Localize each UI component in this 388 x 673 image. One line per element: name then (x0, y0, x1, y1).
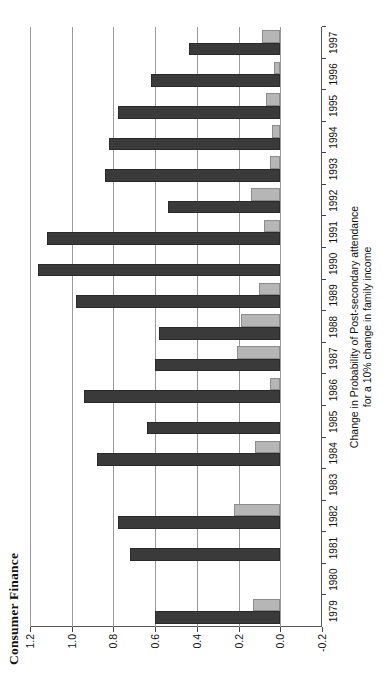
category-axis-tick-label: 1988 (328, 316, 339, 338)
bar (253, 599, 280, 612)
value-axis-tick (322, 627, 323, 632)
bar (97, 453, 281, 466)
value-axis-tick (155, 627, 156, 632)
bar (155, 359, 280, 372)
bar (168, 201, 281, 214)
category-axis-tick-label: 1979 (328, 600, 339, 622)
bar (270, 378, 280, 391)
value-axis-tick (72, 627, 73, 632)
bar (38, 264, 280, 277)
category-axis-tick-label: 1995 (328, 95, 339, 117)
bar (259, 283, 280, 296)
bar (84, 390, 280, 403)
category-axis-tick-label: 1991 (328, 221, 339, 243)
value-axis-tick (239, 627, 240, 632)
value-axis-tick-label: 1.2 (24, 634, 36, 649)
category-axis-tick (322, 310, 326, 311)
bar (251, 188, 280, 201)
bar (241, 314, 281, 327)
category-axis-tick-label: 1987 (328, 347, 339, 369)
value-axis-tick-label: 0.0 (274, 634, 286, 649)
category-axis-tick-label: 1994 (328, 126, 339, 148)
bar (274, 62, 280, 75)
bar (47, 232, 281, 245)
category-axis-tick-label: 1984 (328, 442, 339, 464)
value-axis-tick-label: 0.6 (149, 634, 161, 649)
value-axis-tick (113, 627, 114, 632)
gridline (113, 27, 114, 627)
category-axis-tick (322, 563, 326, 564)
category-axis-tick-label: 1981 (328, 537, 339, 559)
category-axis-tick (322, 437, 326, 438)
category-axis-tick (322, 279, 326, 280)
category-axis-tick (322, 58, 326, 59)
bar (262, 30, 281, 43)
category-axis-tick (322, 89, 326, 90)
bar (130, 548, 280, 561)
value-axis-tick-label: 0.8 (107, 634, 119, 649)
category-axis-tick (322, 500, 326, 501)
category-axis-tick-label: 1980 (328, 569, 339, 591)
axis-title-line-1: Change in Probability of Post-secondary … (348, 27, 361, 627)
rotated-chart-canvas: Consumer Finance 1.21.00.80.60.40.20.0-0… (0, 0, 388, 673)
gridline (280, 27, 281, 627)
bar (159, 327, 280, 340)
bar (255, 441, 280, 454)
value-axis-tick (30, 627, 31, 632)
gridline (72, 27, 73, 627)
category-axis-tick (322, 594, 326, 595)
category-axis-tick-label: 1986 (328, 379, 339, 401)
category-axis-tick-label: 1997 (328, 32, 339, 54)
bar (118, 106, 281, 119)
value-axis-tick-label: -0.2 (316, 634, 328, 652)
bar (147, 422, 280, 435)
bar (189, 43, 281, 56)
bar (155, 611, 280, 624)
bar (151, 74, 280, 87)
category-axis-tick (322, 405, 326, 406)
category-axis-tick (322, 26, 326, 27)
axis-title: Change in Probability of Post-secondary … (348, 27, 374, 627)
bar (76, 295, 280, 308)
bar (105, 169, 280, 182)
gridline (30, 27, 31, 627)
bar (264, 220, 281, 233)
bar (270, 156, 280, 169)
bar (237, 346, 281, 359)
category-axis-tick (322, 121, 326, 122)
plot-area: 1.21.00.80.60.40.20.0-0.2 19791980198119… (30, 27, 322, 627)
bar (234, 504, 280, 517)
bar (109, 138, 280, 151)
page-title: Consumer Finance (6, 553, 22, 665)
bar (118, 516, 281, 529)
category-axis-tick (322, 184, 326, 185)
category-axis-tick (322, 247, 326, 248)
category-axis-tick-label: 1990 (328, 253, 339, 275)
bar (266, 93, 281, 106)
value-axis-tick-label: 0.4 (191, 634, 203, 649)
category-axis-tick-label: 1983 (328, 474, 339, 496)
category-axis-tick-label: 1985 (328, 411, 339, 433)
category-axis-tick-label: 1996 (328, 63, 339, 85)
bar (272, 125, 280, 138)
category-axis-tick-label: 1982 (328, 505, 339, 527)
category-axis-tick (322, 152, 326, 153)
category-axis-tick (322, 468, 326, 469)
category-axis-tick (322, 531, 326, 532)
category-axis-tick (322, 342, 326, 343)
category-axis-tick-label: 1992 (328, 190, 339, 212)
category-axis-tick (322, 215, 326, 216)
value-axis-tick-label: 1.0 (66, 634, 78, 649)
value-axis-tick (197, 627, 198, 632)
value-axis-tick-label: 0.2 (233, 634, 245, 649)
chart-page: Consumer Finance 1.21.00.80.60.40.20.0-0… (0, 0, 388, 673)
category-axis-tick-label: 1993 (328, 158, 339, 180)
category-axis-tick (322, 373, 326, 374)
value-axis-tick (280, 627, 281, 632)
category-axis-tick-label: 1989 (328, 284, 339, 306)
axis-title-line-2: for a 10% change in family income (361, 27, 374, 627)
